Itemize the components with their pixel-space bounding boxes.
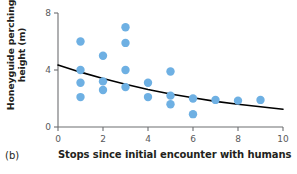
data-point	[234, 96, 242, 104]
data-point	[211, 96, 219, 104]
data-point	[256, 96, 264, 104]
data-point	[189, 94, 197, 102]
data-points	[76, 23, 264, 118]
data-point	[166, 100, 174, 108]
x-tick-label-2: 2	[100, 134, 106, 144]
data-point	[144, 79, 152, 87]
x-tick-label-4: 4	[145, 134, 151, 144]
y-tick-labels: 048	[45, 8, 51, 132]
data-point	[144, 93, 152, 101]
data-point	[99, 52, 107, 60]
data-point	[76, 37, 84, 45]
y-tick-label-8: 8	[45, 8, 51, 18]
x-tick-label-8: 8	[235, 134, 241, 144]
data-point	[166, 91, 174, 99]
data-point	[76, 79, 84, 87]
data-point	[189, 110, 197, 118]
figure-panel: Honeyguide perching height (m) 0246810 0…	[0, 0, 297, 174]
x-tick-labels: 0246810	[55, 134, 289, 144]
scatter-plot: 0246810 048	[0, 0, 297, 174]
x-tick-label-6: 6	[190, 134, 196, 144]
x-tick-label-0: 0	[55, 134, 61, 144]
x-tick-label-10: 10	[277, 134, 289, 144]
data-point	[76, 93, 84, 101]
x-tick-marks	[58, 127, 283, 131]
panel-label: (b)	[5, 150, 19, 161]
x-axis-label: Stops since initial encounter with human…	[58, 149, 290, 160]
data-point	[99, 86, 107, 94]
data-point	[121, 83, 129, 91]
data-point	[121, 23, 129, 31]
y-tick-label-0: 0	[45, 122, 51, 132]
data-point	[121, 66, 129, 74]
y-tick-label-4: 4	[45, 65, 51, 75]
data-point	[166, 67, 174, 75]
data-point	[121, 39, 129, 47]
data-point	[99, 77, 107, 85]
data-point	[76, 66, 84, 74]
y-tick-marks	[54, 13, 58, 127]
